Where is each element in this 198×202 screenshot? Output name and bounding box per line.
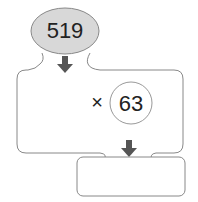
input-value: 519 (31, 18, 99, 44)
operand-value: 63 (110, 91, 152, 117)
down-arrow-icon (121, 140, 137, 157)
result-box (77, 157, 185, 196)
operator-symbol: × (87, 91, 107, 114)
down-arrow-icon (57, 56, 73, 73)
